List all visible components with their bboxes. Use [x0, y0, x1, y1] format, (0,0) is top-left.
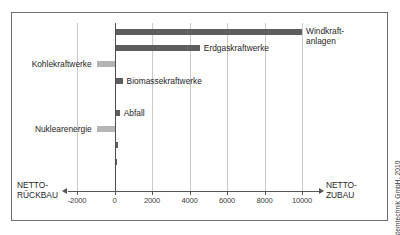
left-arrow-icon [62, 188, 67, 194]
x-axis-tick [77, 191, 78, 195]
bar-label: Erdgaskraftwerke [204, 43, 269, 54]
netto-rueckbau-line2: RÜCKBAU [17, 190, 58, 200]
gridline [77, 23, 78, 191]
x-axis-tick-label: 10000 [282, 196, 322, 205]
x-axis-tick [227, 191, 228, 195]
chart-credit: Ludwig-Bölkow-Systemtechnik GmbH, 2010 [394, 160, 400, 235]
bar-label-line: Windkraft- [306, 26, 344, 37]
x-axis-tick-label: 6000 [207, 196, 247, 205]
x-axis-tick [115, 191, 116, 195]
bar-label: Nuklearenergie [35, 124, 92, 135]
zero-axis-line [115, 23, 116, 195]
netto-zubau-label: NETTO-ZUBAU [326, 180, 357, 200]
bar [97, 61, 115, 67]
chart-frame: Windkraft-anlagenErdgaskraftwerkeKohlekr… [11, 12, 388, 221]
bar [115, 29, 303, 35]
bar [97, 126, 115, 132]
bar-label: Kohlekraftwerke [32, 59, 92, 70]
netto-rueckbau-label: NETTO-RÜCKBAU [17, 180, 58, 200]
bar [115, 45, 200, 51]
x-axis-tick-label: 2000 [132, 196, 172, 205]
bar-label: Abfall [124, 108, 145, 119]
x-axis-tick [265, 191, 266, 195]
bar-label-line: anlagen [306, 36, 344, 47]
x-axis-tick [302, 191, 303, 195]
netto-rueckbau-line1: NETTO- [17, 180, 58, 190]
chart-figure: Windkraft-anlagenErdgaskraftwerkeKohlekr… [0, 0, 400, 235]
netto-zubau-line1: NETTO- [326, 180, 357, 190]
bar-label: Windkraft-anlagen [306, 26, 344, 47]
plot-area: Windkraft-anlagenErdgaskraftwerkeKohlekr… [12, 13, 389, 222]
x-axis-tick [190, 191, 191, 195]
x-axis-tick [152, 191, 153, 195]
x-axis-tick-label: -2000 [57, 196, 97, 205]
x-axis-tick-label: 8000 [245, 196, 285, 205]
right-arrow-icon [319, 188, 324, 194]
gridline [302, 23, 303, 191]
x-axis-line [68, 191, 319, 192]
x-axis-tick-label: 4000 [170, 196, 210, 205]
x-axis-tick-label: 0 [95, 196, 135, 205]
netto-zubau-line2: ZUBAU [326, 190, 357, 200]
bar-label: Biomassekraftwerke [127, 76, 202, 87]
